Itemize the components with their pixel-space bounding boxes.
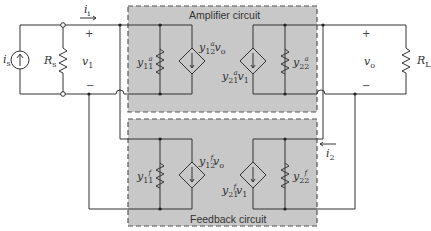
vo-label: vo bbox=[364, 56, 375, 70]
ii-label: ii bbox=[84, 4, 90, 18]
resistor-rs-icon bbox=[59, 48, 67, 73]
input-plus: + bbox=[85, 28, 93, 39]
y11f-label: y11f bbox=[137, 170, 151, 185]
resistor-rl-icon bbox=[402, 48, 410, 73]
feedback-title: Feedback circuit bbox=[190, 214, 266, 225]
feedback-block bbox=[128, 119, 317, 226]
input-terminal-bottom bbox=[61, 92, 66, 97]
output-minus: − bbox=[362, 80, 370, 91]
source-current-label: is bbox=[3, 54, 11, 68]
output-plus: + bbox=[362, 28, 370, 39]
amplifier-block bbox=[128, 6, 317, 112]
y22f-label: y22f bbox=[293, 170, 307, 185]
rl-label: RL bbox=[417, 55, 431, 69]
input-terminal-top bbox=[61, 23, 66, 28]
i2-label: i2 bbox=[326, 148, 335, 162]
y21a-label: y21av1 bbox=[222, 70, 249, 85]
y21f-label: y21fv1 bbox=[222, 184, 247, 199]
y12f-label: y12fvo bbox=[199, 155, 224, 170]
input-minus: − bbox=[86, 80, 94, 91]
amplifier-title: Amplifier circuit bbox=[189, 10, 260, 21]
y12a-label: y12avo bbox=[199, 41, 226, 56]
y11a-label: y11a bbox=[137, 56, 153, 71]
y22a-label: y22a bbox=[293, 56, 309, 71]
rs-label: Rs bbox=[44, 55, 56, 69]
v1-label: v1 bbox=[82, 56, 93, 70]
